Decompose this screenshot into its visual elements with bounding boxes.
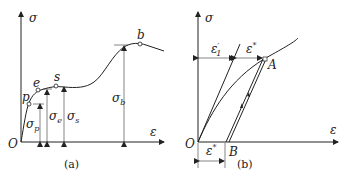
a-origin-label: O: [8, 137, 18, 151]
b-sigma-axis-label: σ: [205, 11, 214, 25]
a-sigma-e-label: σe: [49, 109, 62, 125]
a-sigma-p-label: σp: [26, 117, 39, 133]
a-epsilon-axis-label: ε: [150, 125, 156, 139]
b-origin-label: O: [185, 137, 195, 151]
b-point-B-label: B: [228, 145, 238, 159]
b-elastic-strain-label: ε′1: [211, 41, 221, 58]
figure-a: σ ε O p e s b σp σe σs σb (a): [8, 11, 164, 171]
figure-b: σ ε O A B ε′1 ε* ε* (b): [185, 11, 338, 171]
a-sigma-s-label: σs: [67, 109, 79, 125]
b-plastic-strain-top-label: ε*: [246, 41, 256, 56]
b-point-A-marker: [263, 57, 267, 61]
stress-strain-diagrams: σ ε O p e s b σp σe σs σb (a) σ ε: [0, 0, 345, 182]
b-epsilon-axis-label: ε: [330, 123, 336, 137]
a-point-b-marker: [138, 42, 142, 46]
b-unloading-line: [226, 59, 263, 142]
b-point-A-label: A: [267, 58, 277, 72]
a-stress-strain-curve: [21, 43, 164, 142]
a-sigma-axis-label: σ: [29, 11, 38, 25]
a-point-p-label: p: [22, 90, 30, 104]
a-point-s-marker: [54, 84, 58, 88]
a-point-e-label: e: [33, 76, 40, 90]
b-elastic-line: [198, 44, 240, 142]
b-caption: (b): [237, 158, 253, 171]
a-point-s-label: s: [54, 70, 60, 84]
a-sigma-b-label: σb: [112, 91, 125, 107]
a-point-b-label: b: [137, 28, 145, 42]
a-caption: (a): [64, 158, 79, 171]
b-plastic-strain-bottom-label: ε*: [206, 143, 216, 158]
